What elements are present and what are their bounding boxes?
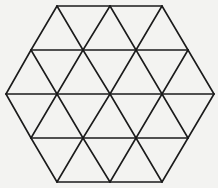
diagonal-edge: [6, 94, 31, 138]
diagonal-edge: [110, 94, 136, 138]
diagonal-edge: [110, 138, 136, 182]
diagonal-edge: [83, 94, 110, 138]
diagonal-edge: [31, 138, 57, 182]
diagonal-edge: [188, 94, 214, 138]
diagonal-edge: [162, 50, 188, 94]
diagonal-edge: [57, 6, 83, 50]
diagonal-edge: [57, 94, 83, 138]
diagonal-edge: [110, 50, 136, 94]
diagonal-edge: [162, 6, 188, 50]
diagonal-edge: [162, 138, 188, 182]
diagonal-edge: [188, 50, 214, 94]
diagonal-edge: [83, 138, 110, 182]
diagonal-edge: [83, 50, 110, 94]
diagonal-edge: [31, 94, 57, 138]
diagonal-edge: [110, 6, 136, 50]
diagonal-edge: [136, 6, 162, 50]
diagonal-edge: [57, 50, 83, 94]
grid-lines: [6, 6, 214, 182]
diagonal-edge: [6, 50, 31, 94]
diagonal-edge: [136, 94, 162, 138]
diagonal-edge: [136, 50, 162, 94]
diagonal-edge: [83, 6, 110, 50]
diagonal-edge: [57, 138, 83, 182]
diagonal-edge: [31, 50, 57, 94]
diagonal-edge: [136, 138, 162, 182]
hexagon-grid-svg: [0, 0, 218, 188]
diagonal-edge: [162, 94, 188, 138]
diagonal-edge: [31, 6, 57, 50]
